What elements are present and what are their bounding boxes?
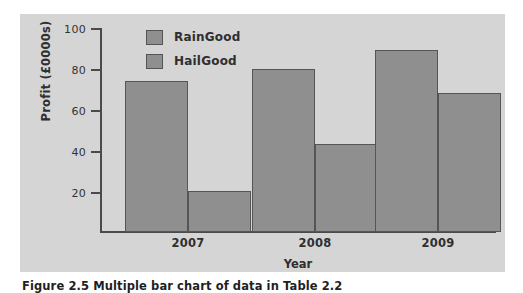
legend-label-hailgood: HailGood	[174, 54, 237, 68]
x-axis-label-2008: 2008	[252, 236, 378, 250]
legend-swatch-icon	[146, 54, 163, 69]
y-axis-tick: 100	[91, 28, 100, 30]
y-axis-line	[100, 28, 102, 233]
bar-hailgood-2009	[438, 93, 501, 232]
legend-swatch-icon	[146, 30, 163, 45]
x-axis-label-2009: 2009	[375, 236, 501, 250]
y-axis-tick-label: 100	[64, 23, 86, 36]
chart-legend: RainGood HailGood	[146, 26, 241, 74]
figure-caption: Figure 2.5 Multiple bar chart of data in…	[22, 279, 342, 293]
bar-raingood-2007	[125, 81, 188, 232]
legend-label-raingood: RainGood	[174, 30, 241, 44]
x-axis-title: Year	[100, 257, 496, 271]
figure-panel: 100 80 60 40 20 Profit (£0000s) 2007 200…	[20, 14, 505, 272]
x-axis-label-2007: 2007	[125, 236, 251, 250]
y-axis-tick: 80	[91, 69, 100, 71]
bar-raingood-2008	[252, 69, 315, 232]
y-axis-tick-label: 20	[71, 187, 86, 200]
bar-hailgood-2008	[315, 144, 378, 232]
legend-item-hailgood: HailGood	[146, 50, 241, 72]
legend-item-raingood: RainGood	[146, 26, 241, 48]
y-axis-tick: 20	[91, 192, 100, 194]
y-axis-tick-label: 80	[71, 64, 86, 77]
y-axis-tick: 40	[91, 151, 100, 153]
bar-chart-plot-area: 100 80 60 40 20 Profit (£0000s) 2007 200…	[20, 14, 505, 272]
y-axis-tick-label: 60	[71, 105, 86, 118]
y-axis-title: Profit (£0000s)	[39, 1, 53, 141]
bar-hailgood-2007	[188, 191, 251, 232]
bar-raingood-2009	[375, 50, 438, 232]
y-axis-tick: 60	[91, 110, 100, 112]
y-axis-tick-label: 40	[71, 146, 86, 159]
